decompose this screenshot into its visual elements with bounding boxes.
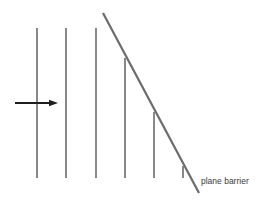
plane-barrier-line (103, 13, 199, 193)
plane-barrier-label: plane barrier (201, 176, 249, 186)
wavefronts (37, 28, 183, 178)
